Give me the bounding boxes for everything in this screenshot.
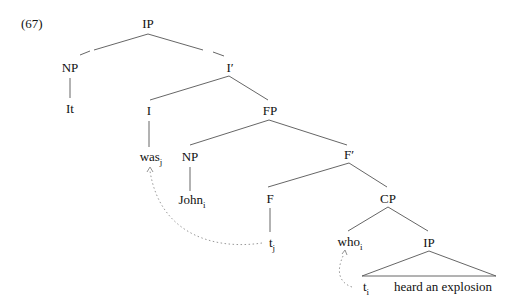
- node-who: whoi: [338, 235, 363, 249]
- node-fp: FP: [263, 104, 277, 118]
- node-ibar: I′: [226, 61, 233, 75]
- node-np-john: NP: [182, 150, 199, 164]
- node-trace-j: tj: [269, 236, 275, 250]
- node-john: Johni: [178, 193, 205, 207]
- node-heard-an-explosion: heard an explosion: [394, 280, 492, 294]
- node-fbar: F′: [344, 148, 354, 162]
- node-trace-i: ti: [363, 280, 369, 294]
- node-it: It: [66, 102, 74, 116]
- node-i: I: [147, 104, 151, 118]
- node-ip-low: IP: [423, 236, 435, 250]
- tree-edges: [0, 0, 516, 305]
- node-f: F: [266, 192, 273, 206]
- node-cp: CP: [380, 192, 396, 206]
- node-np-it: NP: [62, 61, 79, 75]
- node-was: wasj: [140, 150, 163, 164]
- node-ip-root: IP: [142, 17, 154, 31]
